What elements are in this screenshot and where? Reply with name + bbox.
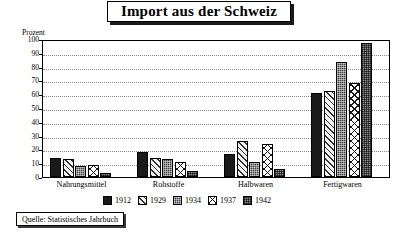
source-note-box: Quelle: Statistisches Jahrbuch — [16, 212, 124, 226]
y-axis-tick-label: 80 — [32, 64, 40, 72]
bar-nahrungsmittel-1929[interactable] — [63, 159, 74, 177]
y-axis-tick-label: 60 — [32, 91, 40, 99]
plot-inner — [43, 41, 389, 177]
bar-nahrungsmittel-1942[interactable] — [100, 173, 111, 177]
chart-legend: 19121929193419371942 — [103, 195, 271, 206]
bar-group — [43, 41, 130, 177]
x-axis-category-labels: NahrungsmittelRohstoffeHalbwarenFertigwa… — [42, 180, 390, 192]
y-axis-tick-label: 100 — [28, 36, 39, 44]
y-axis-tick-label: 20 — [32, 147, 40, 155]
legend-swatch-1937 — [208, 196, 217, 205]
legend-swatch-1942 — [243, 196, 252, 205]
y-axis-tick-labels: 0102030405060708090100 — [18, 40, 39, 178]
bar-group — [217, 41, 304, 177]
legend-label-1934: 1934 — [185, 196, 201, 205]
y-axis-tick-label: 50 — [32, 105, 40, 113]
bar-fertigwaren-1942[interactable] — [361, 43, 372, 177]
chart-title-box: Import aus der Schweiz — [107, 1, 291, 22]
page-title: Import aus der Schweiz — [121, 3, 277, 20]
bar-halbwaren-1929[interactable] — [237, 141, 248, 177]
y-axis-tick-label: 10 — [32, 160, 40, 168]
bar-halbwaren-1937[interactable] — [262, 144, 273, 177]
legend-item-1929[interactable]: 1929 — [138, 196, 166, 205]
legend-label-1942: 1942 — [255, 196, 271, 205]
bar-nahrungsmittel-1937[interactable] — [88, 165, 99, 177]
legend-item-1937[interactable]: 1937 — [208, 196, 236, 205]
legend-item-1934[interactable]: 1934 — [173, 196, 201, 205]
bar-fertigwaren-1912[interactable] — [311, 93, 322, 177]
bar-rohstoffe-1934[interactable] — [162, 159, 173, 177]
y-axis-tick-label: 70 — [32, 78, 40, 86]
y-axis-tick-label: 40 — [32, 119, 40, 127]
bar-rohstoffe-1942[interactable] — [187, 171, 198, 177]
x-axis-label-fertigwaren: Fertigwaren — [323, 180, 362, 189]
bar-fertigwaren-1929[interactable] — [324, 91, 335, 177]
bar-group — [304, 41, 391, 177]
legend-swatch-1929 — [138, 196, 147, 205]
y-axis-tick-label: 90 — [32, 50, 40, 58]
x-axis-label-halbwaren: Halbwaren — [238, 180, 273, 189]
legend-item-1942[interactable]: 1942 — [243, 196, 271, 205]
bar-fertigwaren-1934[interactable] — [336, 62, 347, 177]
plot-area — [42, 40, 390, 178]
bar-group — [130, 41, 217, 177]
legend-item-1912[interactable]: 1912 — [103, 196, 131, 205]
legend-label-1929: 1929 — [150, 196, 166, 205]
source-note-text: Quelle: Statistisches Jahrbuch — [22, 215, 118, 224]
bar-halbwaren-1942[interactable] — [274, 169, 285, 177]
bar-rohstoffe-1937[interactable] — [175, 162, 186, 177]
bar-nahrungsmittel-1934[interactable] — [75, 166, 86, 177]
bar-rohstoffe-1912[interactable] — [137, 152, 148, 177]
bar-rohstoffe-1929[interactable] — [150, 158, 161, 177]
bar-halbwaren-1912[interactable] — [224, 154, 235, 177]
legend-swatch-1934 — [173, 196, 182, 205]
legend-label-1937: 1937 — [220, 196, 236, 205]
y-axis-tick-mark — [39, 178, 42, 179]
x-axis-label-rohstoffe: Rohstoffe — [153, 180, 184, 189]
bar-fertigwaren-1937[interactable] — [349, 83, 360, 177]
legend-label-1912: 1912 — [115, 196, 131, 205]
x-axis-label-nahrungsmittel: Nahrungsmittel — [57, 180, 107, 189]
legend-swatch-1912 — [103, 196, 112, 205]
bar-nahrungsmittel-1912[interactable] — [50, 158, 61, 177]
y-axis-tick-label: 30 — [32, 133, 40, 141]
bar-halbwaren-1934[interactable] — [249, 162, 260, 177]
